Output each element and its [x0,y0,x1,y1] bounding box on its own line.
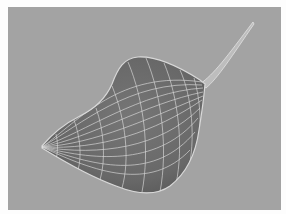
wireframe-model [0,0,286,214]
image-frame [0,0,286,214]
stem [200,22,254,88]
